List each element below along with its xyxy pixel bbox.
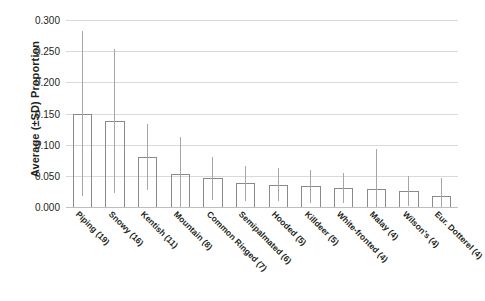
axis-baseline — [66, 207, 458, 208]
y-axis-tick-label: 0.150 — [35, 108, 60, 119]
y-axis-tick-labels: 0.0000.0500.1000.1500.2000.2500.300 — [0, 0, 66, 207]
bar-group — [269, 20, 289, 207]
bar-group — [334, 20, 354, 207]
y-axis-tick-label: 0.200 — [35, 77, 60, 88]
x-axis-tick-label: Piping (19) — [74, 209, 112, 247]
y-axis-tick-label: 0.000 — [35, 202, 60, 213]
bar-group — [367, 20, 387, 207]
error-bar — [376, 149, 377, 207]
error-bar — [147, 124, 148, 190]
plot-area — [66, 20, 458, 207]
bar-group — [73, 20, 93, 207]
bar-group — [203, 20, 223, 207]
bar-group — [301, 20, 321, 207]
error-bar — [278, 168, 279, 202]
error-bar — [82, 31, 83, 197]
error-bar — [114, 49, 115, 194]
bar-group — [432, 20, 452, 207]
x-axis-tick-label: Eur. Dotterel (4) — [433, 209, 485, 261]
bar-group — [138, 20, 158, 207]
y-axis-tick-label: 0.100 — [35, 139, 60, 150]
y-axis-tick-label: 0.250 — [35, 46, 60, 57]
x-axis-category-labels: Piping (19)Snowy (16)Kentish (11)Mountai… — [66, 209, 458, 301]
bar-group — [171, 20, 191, 207]
error-bar — [212, 157, 213, 199]
bar-group — [105, 20, 125, 207]
x-axis-tick-label: Malay (4) — [368, 209, 401, 242]
bar-group — [236, 20, 256, 207]
error-bar — [343, 173, 344, 203]
error-bar — [441, 178, 442, 207]
y-axis-tick-label: 0.300 — [35, 15, 60, 26]
error-bar — [180, 137, 181, 207]
x-axis-tick-label: Common Ringed (7) — [205, 209, 269, 273]
y-axis-tick-label: 0.050 — [35, 170, 60, 181]
bars-layer — [66, 20, 458, 207]
error-bar — [408, 176, 409, 206]
error-bar — [245, 166, 246, 201]
error-bar — [310, 170, 311, 204]
bar-group — [399, 20, 419, 207]
